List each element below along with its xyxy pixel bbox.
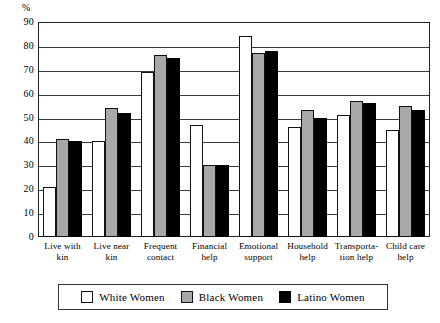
x-axis-label-line: Transporta- xyxy=(333,241,380,252)
x-axis-label-line: help xyxy=(284,252,331,263)
y-axis-tick: 40 xyxy=(4,136,34,146)
y-axis-tick: 80 xyxy=(4,41,34,51)
y-axis-unit-label: % xyxy=(22,2,31,13)
legend-label: White Women xyxy=(99,291,165,303)
y-axis-tick: 0 xyxy=(4,232,34,242)
legend-item[interactable]: White Women xyxy=(81,291,165,303)
gridline xyxy=(39,95,429,96)
legend-label: Black Women xyxy=(199,291,263,303)
y-axis-tick: 70 xyxy=(4,65,34,75)
y-axis-tick: 60 xyxy=(4,89,34,99)
chart-legend: White WomenBlack WomenLatino Women xyxy=(58,284,388,310)
gridline xyxy=(39,47,429,48)
x-axis-label-line: kin xyxy=(39,252,86,263)
x-axis-label: Child carehelp xyxy=(381,241,430,263)
gridline xyxy=(39,71,429,72)
x-axis-label-line: contact xyxy=(137,252,184,263)
y-axis-tick: 50 xyxy=(4,113,34,123)
x-axis-label: Live withkin xyxy=(38,241,87,263)
x-axis-label: Live nearkin xyxy=(87,241,136,263)
legend-swatch-white xyxy=(81,291,93,303)
x-axis-label-line: Household xyxy=(284,241,331,252)
x-axis-category-labels: Live withkinLive nearkinFrequentcontactF… xyxy=(38,241,430,263)
y-axis-tick-labels: 0102030405060708090 xyxy=(0,22,34,237)
legend-item[interactable]: Latino Women xyxy=(279,291,365,303)
gridline xyxy=(39,142,429,143)
y-axis-tick: 90 xyxy=(4,17,34,27)
x-axis-label: Frequentcontact xyxy=(136,241,185,263)
plot-area xyxy=(38,22,430,237)
x-axis-label-line: Live with xyxy=(39,241,86,252)
x-axis-label-line: help xyxy=(186,252,233,263)
x-axis-label-line: tion help xyxy=(333,252,380,263)
y-axis-tick: 30 xyxy=(4,160,34,170)
y-axis-tick: 10 xyxy=(4,208,34,218)
gridline xyxy=(39,214,429,215)
x-axis-label-line: Emotional xyxy=(235,241,282,252)
legend-item[interactable]: Black Women xyxy=(181,291,263,303)
x-axis-label-line: Frequent xyxy=(137,241,184,252)
x-axis-label: Financialhelp xyxy=(185,241,234,263)
gridline xyxy=(39,166,429,167)
legend-swatch-black xyxy=(279,291,291,303)
x-axis-label-line: support xyxy=(235,252,282,263)
x-axis-label-line: Child care xyxy=(382,241,429,252)
x-axis-label: Householdhelp xyxy=(283,241,332,263)
legend-label: Latino Women xyxy=(297,291,365,303)
y-axis-tick: 20 xyxy=(4,184,34,194)
legend-swatch-gray xyxy=(181,291,193,303)
x-axis-label: Transporta-tion help xyxy=(332,241,381,263)
gridline xyxy=(39,190,429,191)
x-axis-label-line: help xyxy=(382,252,429,263)
gridline xyxy=(39,119,429,120)
x-axis-label: Emotionalsupport xyxy=(234,241,283,263)
x-axis-label-line: Live near xyxy=(88,241,135,252)
x-axis-label-line: kin xyxy=(88,252,135,263)
bar-chart: % 0102030405060708090 Live withkinLive n… xyxy=(0,0,440,323)
x-axis-label-line: Financial xyxy=(186,241,233,252)
